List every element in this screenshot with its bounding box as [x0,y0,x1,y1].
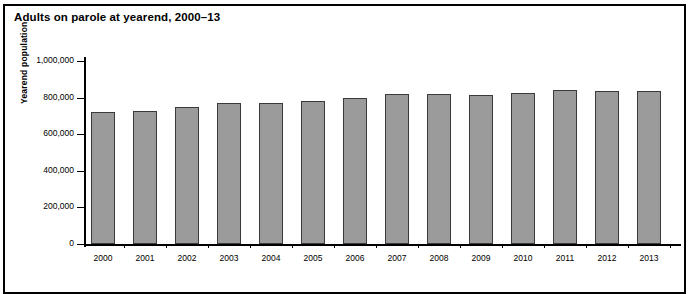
y-tick-label: 0 [69,238,74,248]
bar [553,90,577,244]
x-tick-mark [418,244,419,248]
chart-title: Adults on parole at yearend, 2000–13 [14,11,220,23]
x-tick-label: 2009 [461,253,501,263]
bar [133,111,157,244]
x-tick-label: 2001 [125,253,165,263]
x-tick-mark [628,244,629,248]
x-tick-mark [544,244,545,248]
bar [217,103,241,244]
y-tick-label: 200,000 [43,201,74,211]
plot-area: 0200,000400,000600,000800,0001,000,000 2… [84,61,681,244]
x-tick-label: 2005 [293,253,333,263]
x-tick-mark [670,244,671,248]
bar [259,103,283,244]
x-tick-label: 2003 [209,253,249,263]
bar [511,93,535,244]
x-tick-mark [586,244,587,248]
x-tick-label: 2000 [83,253,123,263]
x-tick-label: 2012 [587,253,627,263]
bar [301,101,325,244]
y-tick-label: 800,000 [43,92,74,102]
x-tick-label: 2013 [629,253,669,263]
x-tick-label: 2010 [503,253,543,263]
y-tick-label: 1,000,000 [36,55,74,65]
bar [343,98,367,244]
y-axis-line [84,57,86,247]
x-axis-line [84,244,681,246]
x-tick-mark [166,244,167,248]
x-tick-mark [208,244,209,248]
bar [175,107,199,244]
y-tick-mark [77,98,84,99]
y-tick-label: 600,000 [43,128,74,138]
bar [595,91,619,244]
x-tick-label: 2002 [167,253,207,263]
bar [469,95,493,244]
x-tick-mark [250,244,251,248]
y-tick-mark [77,244,84,245]
bar [385,94,409,244]
y-tick-mark [77,61,84,62]
x-tick-label: 2011 [545,253,585,263]
bar [91,112,115,244]
x-tick-mark [292,244,293,248]
x-tick-label: 2008 [419,253,459,263]
bar [637,91,661,244]
bar [427,94,451,244]
y-tick-label: 400,000 [43,165,74,175]
x-tick-mark [460,244,461,248]
x-tick-mark [334,244,335,248]
y-tick-mark [77,207,84,208]
y-tick-mark [77,134,84,135]
x-tick-label: 2007 [377,253,417,263]
x-tick-label: 2004 [251,253,291,263]
y-tick-mark [77,171,84,172]
x-tick-mark [502,244,503,248]
y-axis-title: Yearend population [19,22,29,104]
x-tick-mark [124,244,125,248]
x-tick-mark [376,244,377,248]
x-tick-label: 2006 [335,253,375,263]
